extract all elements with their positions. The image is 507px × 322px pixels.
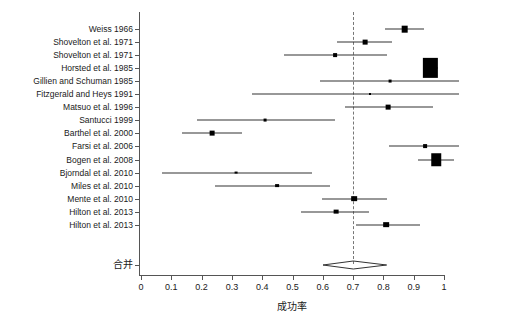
effect-estimate-marker xyxy=(234,171,237,174)
effect-estimate-marker xyxy=(264,119,267,122)
study-label: Weiss 1966 xyxy=(89,25,133,34)
study-label: Miles et al. 2010 xyxy=(71,181,133,190)
effect-estimate-marker xyxy=(431,153,441,167)
y-axis-tick xyxy=(135,107,139,108)
x-axis-tick-label: 0.2 xyxy=(195,282,208,292)
x-axis-tick xyxy=(323,276,324,280)
x-axis-tick-label: 1 xyxy=(441,282,446,292)
study-label: Hilton et al. 2013 xyxy=(69,221,133,230)
reference-line xyxy=(353,12,354,264)
study-label: Shovelton et al. 1971 xyxy=(53,38,133,47)
x-axis-tick xyxy=(353,276,354,280)
y-axis-tick xyxy=(135,146,139,147)
study-label: Gillien and Schuman 1985 xyxy=(33,77,133,86)
study-label: Farsi et al. 2006 xyxy=(72,142,133,151)
confidence-interval-line xyxy=(215,185,330,186)
x-axis-tick-label: 0.5 xyxy=(286,282,299,292)
x-axis-tick-label: 0.8 xyxy=(377,282,390,292)
study-label-column: Weiss 1966Shovelton et al. 1971Shovelton… xyxy=(0,0,133,322)
x-axis-tick xyxy=(293,276,294,280)
effect-estimate-marker xyxy=(275,184,279,188)
y-axis-tick xyxy=(135,42,139,43)
summary-label: 合并 xyxy=(113,260,133,270)
y-axis-tick xyxy=(135,94,139,95)
study-label: Matsuo et al. 1996 xyxy=(63,103,133,112)
x-axis-tick xyxy=(262,276,263,280)
y-axis-tick xyxy=(135,225,139,226)
summary-diamond xyxy=(321,259,389,271)
y-axis-tick xyxy=(135,55,139,56)
effect-estimate-marker xyxy=(383,222,389,228)
x-axis-tick-label: 0.9 xyxy=(407,282,420,292)
effect-estimate-marker xyxy=(351,196,357,202)
y-axis-tick xyxy=(135,186,139,187)
study-label: Hilton et al. 2013 xyxy=(69,207,133,216)
effect-estimate-marker xyxy=(386,105,391,110)
x-axis-tick xyxy=(202,276,203,280)
effect-estimate-marker xyxy=(389,80,392,83)
study-label: Shovelton et al. 1971 xyxy=(53,51,133,60)
y-axis-tick xyxy=(135,133,139,134)
x-axis-tick-label: 0.1 xyxy=(165,282,178,292)
y-axis-tick xyxy=(135,199,139,200)
x-axis-tick-label: 0.3 xyxy=(226,282,239,292)
x-axis-tick-label: 0.6 xyxy=(317,282,330,292)
x-axis-tick xyxy=(171,276,172,280)
y-axis-tick xyxy=(135,81,139,82)
effect-estimate-marker xyxy=(401,26,408,33)
x-axis-tick-label: 0.7 xyxy=(347,282,360,292)
x-axis-tick xyxy=(383,276,384,280)
effect-estimate-marker xyxy=(210,131,215,136)
study-label: Bjorndal et al. 2010 xyxy=(60,168,133,177)
x-axis-title: 成功率 xyxy=(277,298,307,313)
study-label: Fitzgerald and Heys 1991 xyxy=(36,90,133,99)
x-axis-tick xyxy=(444,276,445,280)
effect-estimate-marker xyxy=(423,58,437,78)
effect-estimate-marker xyxy=(363,40,368,45)
study-label: Horsted et al. 1985 xyxy=(61,64,133,73)
y-axis-tick xyxy=(135,120,139,121)
y-axis-tick xyxy=(135,160,139,161)
y-axis-line xyxy=(139,12,140,275)
x-axis-tick xyxy=(414,276,415,280)
x-axis-tick-label: 0 xyxy=(138,282,143,292)
forest-plot: Weiss 1966Shovelton et al. 1971Shovelton… xyxy=(0,0,507,322)
y-axis-tick xyxy=(135,173,139,174)
y-axis-tick xyxy=(135,68,139,69)
y-axis-tick-summary xyxy=(135,265,139,266)
study-label: Mente et al. 2010 xyxy=(67,194,133,203)
x-axis-tick xyxy=(232,276,233,280)
study-label: Bogen et al. 2008 xyxy=(66,155,133,164)
y-axis-tick xyxy=(135,29,139,30)
effect-estimate-marker xyxy=(423,145,427,149)
x-axis-tick-label: 0.4 xyxy=(256,282,269,292)
effect-estimate-marker xyxy=(369,93,371,95)
effect-estimate-marker xyxy=(334,209,339,214)
study-label: Barthel et al. 2000 xyxy=(64,129,133,138)
study-label: Santucci 1999 xyxy=(79,116,133,125)
x-axis-tick xyxy=(141,276,142,280)
y-axis-tick xyxy=(135,212,139,213)
confidence-interval-line xyxy=(252,94,459,95)
effect-estimate-marker xyxy=(333,53,337,57)
